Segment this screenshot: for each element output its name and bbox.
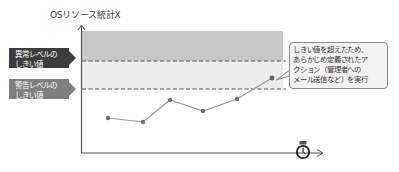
data-point	[106, 116, 110, 120]
warning-threshold-label: 警告レベルの しきい値	[9, 79, 69, 99]
data-point	[270, 76, 275, 81]
label-line: 異常レベルの	[15, 50, 69, 60]
critical-label-arrow	[69, 51, 76, 65]
callout-line: クション（管理者への	[293, 65, 384, 75]
label-line: しきい値	[15, 91, 69, 101]
critical-zone	[82, 31, 283, 61]
data-point	[141, 120, 145, 124]
callout-line: メール送信など）を実行	[293, 75, 384, 85]
label-line: 警告レベルの	[15, 81, 69, 91]
data-point	[235, 97, 239, 101]
action-callout: しきい値を超えたため、 あらかじめ定義されたア クション（管理者への メール送信…	[289, 42, 388, 89]
label-line: しきい値	[15, 60, 69, 70]
data-point	[201, 109, 205, 113]
data-point	[168, 98, 172, 102]
critical-threshold-label: 異常レベルの しきい値	[9, 48, 69, 68]
warning-zone	[82, 61, 283, 89]
stopwatch-icon	[297, 141, 309, 158]
warning-label-arrow	[69, 82, 76, 96]
callout-line: あらかじめ定義されたア	[293, 55, 384, 65]
callout-line: しきい値を超えたため、	[293, 45, 384, 55]
